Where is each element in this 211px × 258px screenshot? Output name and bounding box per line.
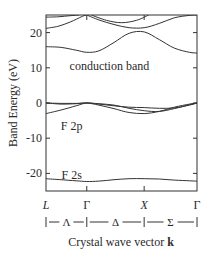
- y-tick-label: -20: [26, 166, 42, 180]
- band-structure-chart: 20100-10-20 LΓXΓ conduction bandF 2pF 2s…: [0, 0, 211, 258]
- band-curves: [46, 15, 197, 182]
- k-point-label: X: [139, 198, 148, 212]
- y-axis-label: Band Energy (eV): [6, 59, 20, 147]
- x-axis-label-text: Crystal wave vector: [68, 235, 167, 249]
- band-annotation: F 2s: [61, 168, 82, 182]
- y-tick-label: -10: [26, 131, 42, 145]
- band-curve: [87, 15, 197, 28]
- k-point-label: L: [42, 198, 50, 212]
- y-tick-label: 0: [36, 96, 42, 110]
- band-curve: [46, 31, 197, 53]
- band-annotation: F 2p: [61, 119, 83, 133]
- annotations: conduction bandF 2pF 2s: [61, 59, 149, 182]
- band-annotation: conduction band: [70, 59, 150, 73]
- k-point-label: Γ: [83, 198, 90, 212]
- y-tick-label: 20: [30, 26, 42, 40]
- x-axis-label: Crystal wave vector k: [68, 235, 174, 249]
- k-point-ticks: LΓXΓ: [42, 15, 201, 212]
- k-direction-label: Λ: [62, 216, 70, 228]
- x-axis-label-vector: k: [167, 235, 174, 249]
- k-point-label: Γ: [194, 198, 201, 212]
- k-direction-label: Σ: [167, 216, 173, 228]
- band-curve: [91, 15, 148, 23]
- y-tick-label: 10: [30, 61, 42, 75]
- k-direction-label: Δ: [112, 216, 119, 228]
- k-direction-labels: ΛΔΣ: [46, 216, 197, 228]
